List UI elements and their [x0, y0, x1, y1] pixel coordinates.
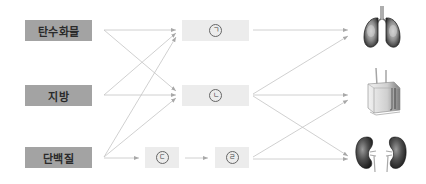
blank-label: ㄹ: [226, 151, 239, 164]
arrow-fat-to-g: [104, 33, 176, 95]
blank-digeut: ㄷ: [145, 147, 179, 168]
blank-label: ㄴ: [209, 89, 222, 102]
arrow-n-to-lungs: [253, 36, 348, 94]
lungs-icon: [360, 4, 404, 50]
arrow-protein-to-g: [104, 37, 176, 157]
nutrient-label: 탄수화물: [38, 23, 80, 39]
nutrient-label: 지방: [48, 88, 69, 104]
blank-label: ㄱ: [209, 24, 222, 37]
nutrient-fat: 지방: [25, 85, 92, 106]
arrow-r-to-skin: [253, 100, 348, 157]
arrow-carb-to-n: [104, 30, 176, 91]
arrow-n-to-kidneys: [253, 96, 348, 156]
nutrient-protein: 단백질: [25, 147, 92, 168]
nutrient-label: 단백질: [43, 150, 75, 166]
nutrient-carbohydrate: 탄수화물: [25, 20, 92, 41]
blank-nieun: ㄴ: [182, 85, 249, 106]
blank-rieul: ㄹ: [215, 147, 249, 168]
skin-icon: [364, 66, 404, 118]
blank-label: ㄷ: [156, 151, 169, 164]
blank-giyeok: ㄱ: [182, 20, 249, 41]
kidneys-icon: [354, 134, 408, 174]
